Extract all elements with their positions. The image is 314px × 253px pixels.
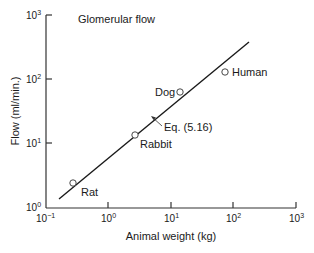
x-tick-label: 100 [101, 212, 116, 224]
y-tick-label: 103 [26, 9, 41, 21]
y-tick-label: 101 [26, 137, 41, 149]
x-tick-label: 102 [226, 212, 241, 224]
x-tick-label: 103 [289, 212, 304, 224]
data-point-human: Human [222, 66, 268, 78]
x-axis-label: Animal weight (kg) [126, 230, 216, 242]
y-ticks [46, 15, 52, 143]
svg-text:Human: Human [232, 66, 267, 78]
data-point-dog: Dog [155, 86, 183, 98]
fit-line [59, 42, 249, 199]
data-point-rat: Rat [70, 180, 98, 198]
y-tick-label: 102 [26, 73, 41, 85]
data-point-rabbit: Rabbit [132, 132, 172, 150]
x-ticks [108, 202, 296, 208]
svg-text:Rat: Rat [81, 186, 98, 198]
svg-text:Rabbit: Rabbit [140, 138, 172, 150]
fit-line-label: Eq. (5.16) [164, 121, 212, 133]
y-tick-label: 100 [26, 201, 41, 213]
svg-text:Dog: Dog [155, 86, 175, 98]
x-tick-label: 101 [164, 212, 179, 224]
y-axis-label: Flow (ml/min.) [9, 76, 21, 145]
x-tick-label: 10−1 [36, 212, 55, 224]
chart: 103 102 101 100 10−1 100 101 102 103 Ani… [0, 0, 314, 253]
chart-title: Glomerular flow [78, 13, 155, 25]
